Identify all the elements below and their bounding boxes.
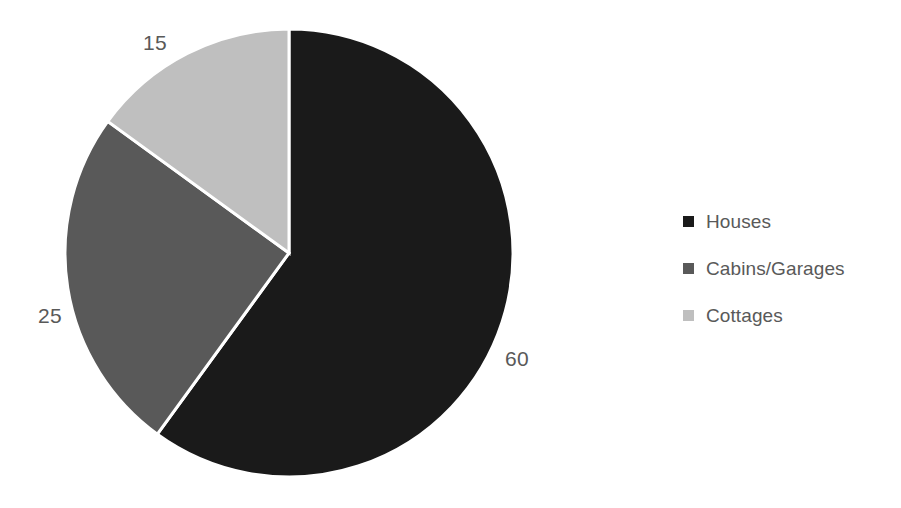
legend-label-houses: Houses bbox=[706, 211, 771, 233]
data-label-cabins-garages: 25 bbox=[38, 305, 62, 326]
legend-swatch-icon-cabins-garages bbox=[683, 263, 694, 274]
data-label-cottages: 15 bbox=[143, 32, 167, 53]
legend-label-cabins-garages: Cabins/Garages bbox=[706, 258, 845, 280]
pie-chart: 15 25 60 Houses Cabins/Garages Cottages bbox=[0, 0, 901, 508]
legend-item-cottages[interactable]: Cottages bbox=[683, 292, 883, 339]
legend-swatch-icon-cottages bbox=[683, 310, 694, 321]
chart-legend: Houses Cabins/Garages Cottages bbox=[683, 198, 883, 339]
legend-swatch-icon-houses bbox=[683, 216, 694, 227]
legend-item-houses[interactable]: Houses bbox=[683, 198, 883, 245]
legend-item-cabins-garages[interactable]: Cabins/Garages bbox=[683, 245, 883, 292]
data-label-houses: 60 bbox=[505, 348, 529, 369]
legend-label-cottages: Cottages bbox=[706, 305, 783, 327]
